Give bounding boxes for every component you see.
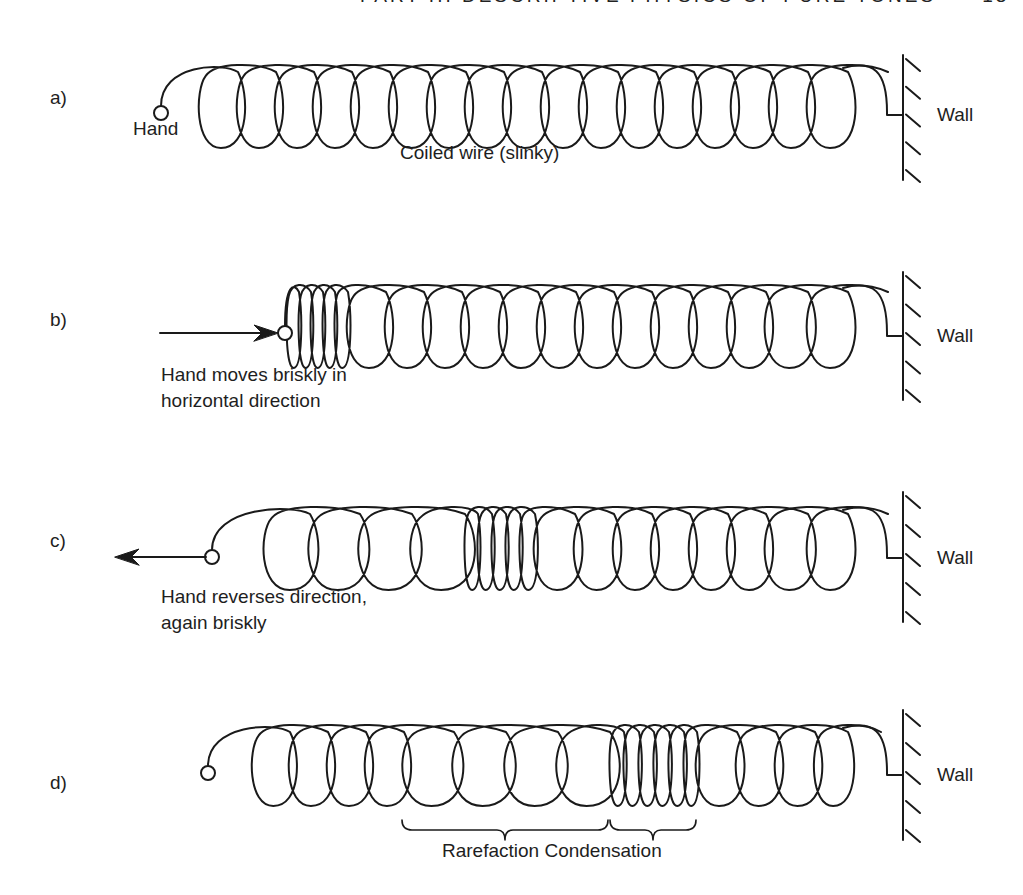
wall-label: Wall bbox=[937, 324, 973, 348]
hand-circle-icon bbox=[205, 550, 219, 564]
wire-tail bbox=[843, 285, 903, 336]
coiled-wire bbox=[212, 507, 888, 590]
arrow-right-icon bbox=[160, 325, 278, 341]
rarefaction-brace bbox=[402, 820, 608, 840]
hand-circle-icon bbox=[278, 326, 292, 340]
wall-icon bbox=[903, 492, 920, 624]
panel-label-d: d) bbox=[50, 771, 67, 795]
panel-label-c: c) bbox=[50, 529, 66, 553]
panel-label-b: b) bbox=[50, 308, 67, 332]
wall-label: Wall bbox=[937, 763, 973, 787]
wall-icon bbox=[903, 272, 920, 402]
action-label-line1: Hand reverses direction, bbox=[161, 585, 367, 609]
condensation-brace bbox=[610, 820, 696, 840]
coiled-wire bbox=[285, 285, 888, 368]
wall-icon bbox=[903, 55, 920, 182]
coiled-wire bbox=[208, 725, 881, 806]
coiled-wire bbox=[161, 65, 888, 148]
hand-circle-icon bbox=[201, 766, 215, 780]
wall-label: Wall bbox=[937, 103, 973, 127]
wall-label: Wall bbox=[937, 546, 973, 570]
action-label-line2: again briskly bbox=[161, 611, 267, 635]
coil-label: Coiled wire (slinky) bbox=[400, 141, 559, 165]
panel-d bbox=[201, 710, 920, 842]
brace-caption: Rarefaction Condensation bbox=[442, 839, 662, 863]
action-label-line2: horizontal direction bbox=[161, 389, 320, 413]
action-label-line1: Hand moves briskly in bbox=[161, 363, 347, 387]
hand-label: Hand bbox=[133, 117, 178, 141]
panel-label-a: a) bbox=[50, 86, 67, 110]
wire-tail bbox=[843, 65, 903, 115]
wire-tail bbox=[843, 507, 903, 558]
arrow-left-icon bbox=[115, 549, 206, 565]
wall-icon bbox=[903, 710, 920, 842]
